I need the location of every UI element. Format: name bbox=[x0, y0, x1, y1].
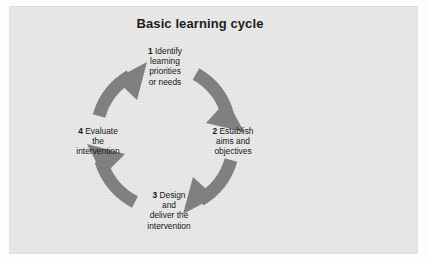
step-3-text-1: Design bbox=[159, 190, 185, 200]
step-4-line-3: intervention bbox=[52, 146, 144, 156]
step-2-line-3: objectives bbox=[188, 146, 278, 156]
step-2-number: 2 bbox=[213, 126, 218, 136]
cycle-step-2: 2 Establish aims and objectives bbox=[188, 126, 278, 157]
step-4-line-1: 4 Evaluate bbox=[52, 126, 144, 136]
step-3-line-4: intervention bbox=[124, 221, 214, 231]
step-3-line-2: and bbox=[124, 200, 214, 210]
step-3-line-3: deliver the bbox=[124, 210, 214, 220]
step-4-text-1: Evaluate bbox=[85, 126, 118, 136]
step-3-number: 3 bbox=[152, 190, 157, 200]
step-1-line-1: 1 Identify bbox=[122, 46, 208, 56]
figure-root: Basic learning cycle bbox=[0, 0, 427, 263]
step-2-line-2: aims and bbox=[188, 136, 278, 146]
step-4-line-2: the bbox=[52, 136, 144, 146]
step-1-line-2: learning bbox=[122, 56, 208, 66]
step-1-number: 1 bbox=[148, 46, 153, 56]
cycle-step-1: 1 Identify learning priorities or needs bbox=[122, 46, 208, 87]
step-2-text-1: Establish bbox=[220, 126, 254, 136]
cycle-step-3: 3 Design and deliver the intervention bbox=[124, 190, 214, 231]
step-3-line-1: 3 Design bbox=[124, 190, 214, 200]
step-1-text-1: Identify bbox=[155, 46, 182, 56]
step-2-line-1: 2 Establish bbox=[188, 126, 278, 136]
step-4-number: 4 bbox=[78, 126, 83, 136]
cycle-step-4: 4 Evaluate the intervention bbox=[52, 126, 144, 157]
step-1-line-3: priorities bbox=[122, 66, 208, 76]
cycle-diagram: 1 Identify learning priorities or needs … bbox=[0, 0, 427, 263]
step-1-line-4: or needs bbox=[122, 77, 208, 87]
